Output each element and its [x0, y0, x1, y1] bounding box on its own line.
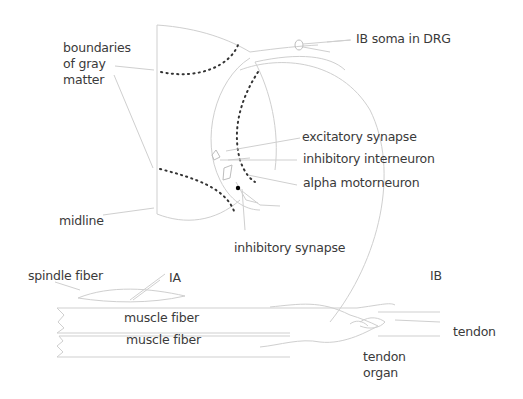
ib-afferent-path [240, 63, 384, 322]
drg-soma-icon [295, 40, 303, 50]
label-tendon: tendon [453, 324, 496, 340]
label-ib-soma: IB soma in DRG [356, 31, 451, 47]
spindle-fiber-shape [78, 289, 185, 302]
label-inhibitory-interneuron: inhibitory interneuron [303, 151, 435, 167]
inhibitory-interneuron-shape [212, 150, 220, 160]
label-inhibitory-synapse: inhibitory synapse [234, 240, 345, 256]
label-midline: midline [59, 213, 104, 229]
label-ib: IB [430, 268, 442, 284]
label-spindle-fiber: spindle fiber [28, 268, 103, 284]
gray-matter-boundary-dorsal [161, 45, 238, 74]
label-ia: IA [169, 270, 181, 286]
muscle-fiber-1-shape [57, 304, 395, 333]
tendon-shape [378, 312, 440, 336]
label-alpha-motorneuron: alpha motorneuron [303, 175, 420, 191]
label-excitatory-synapse: excitatory synapse [302, 129, 417, 145]
label-tendon-organ: tendon organ [363, 349, 406, 381]
label-muscle-fiber-2: muscle fiber [126, 332, 201, 348]
label-boundaries-gray-matter: boundaries of gray matter [63, 40, 131, 88]
gray-matter-boundary-medial [237, 72, 258, 182]
inhibitory-synapse-dot [236, 186, 240, 190]
label-muscle-fiber-1: muscle fiber [124, 310, 199, 326]
